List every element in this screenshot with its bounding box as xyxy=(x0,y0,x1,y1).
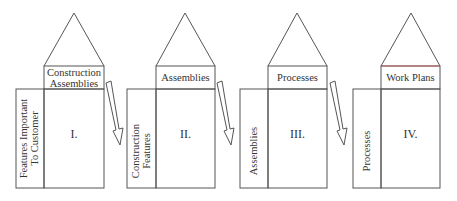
top-label-1-line2: Assemblies xyxy=(50,78,98,89)
side-label-3: Assemblies xyxy=(248,116,259,186)
numeral-4: IV. xyxy=(381,127,440,142)
top-label-4: Work Plans xyxy=(381,72,440,83)
side-label-1-line2: To Customer xyxy=(29,111,40,165)
arrow-icon-2-3 xyxy=(217,81,234,145)
side-label-1: Features Important To Customer xyxy=(18,91,40,186)
numeral-1: I. xyxy=(44,127,104,142)
side-label-2: Construction Features xyxy=(130,116,152,186)
numeral-3: III. xyxy=(268,127,327,142)
arrow-icon-1-2 xyxy=(106,81,123,145)
side-label-2-line2: Features xyxy=(141,133,152,169)
diagram-canvas xyxy=(0,0,457,201)
side-label-4: Processes xyxy=(361,116,372,186)
side-label-1-line1: Features Important xyxy=(18,99,29,179)
arrow-icon-3-4 xyxy=(330,81,347,145)
roof-1 xyxy=(44,13,104,66)
top-label-1: Construction Assemblies xyxy=(44,67,104,89)
numeral-2: II. xyxy=(156,127,215,142)
side-label-2-line1: Construction xyxy=(130,124,141,178)
top-label-2: Assemblies xyxy=(156,72,215,83)
top-label-1-line1: Construction xyxy=(47,67,101,78)
top-label-3: Processes xyxy=(268,72,327,83)
